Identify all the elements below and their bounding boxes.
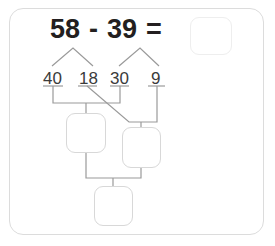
part-tens-of-minuend: 40: [43, 70, 62, 87]
part-ones-of-minuend: 18: [79, 70, 98, 87]
connector-tens-to-left-box: [53, 86, 120, 103]
branch-subtrahend: [119, 48, 159, 66]
part-ones-of-subtrahend: 9: [151, 70, 160, 87]
worksheet-canvas: 58 - 39 = 40 18 30 9: [0, 0, 275, 246]
minuend: 58: [50, 16, 80, 43]
equals-operator: =: [146, 16, 162, 43]
minus-operator: -: [89, 16, 98, 43]
branch-minuend: [52, 48, 93, 66]
final-answer-box[interactable]: [94, 186, 133, 226]
left-partial-answer-box[interactable]: [66, 113, 106, 153]
subtrahend: 39: [107, 16, 137, 43]
equation-row: 58 - 39 =: [50, 16, 162, 43]
part-tens-of-subtrahend: 30: [110, 70, 129, 87]
right-partial-answer-box[interactable]: [122, 127, 161, 168]
result-answer-box[interactable]: [190, 17, 232, 55]
